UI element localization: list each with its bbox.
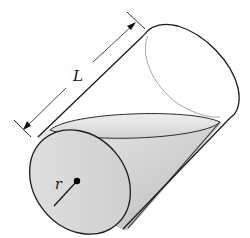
- length-label: L: [72, 67, 83, 85]
- cylinder-cone-diagram: L r: [0, 0, 250, 238]
- cylinder-top-rim: [143, 24, 239, 118]
- center-dot: [74, 178, 80, 184]
- arrowhead-bottom-icon: [23, 121, 31, 130]
